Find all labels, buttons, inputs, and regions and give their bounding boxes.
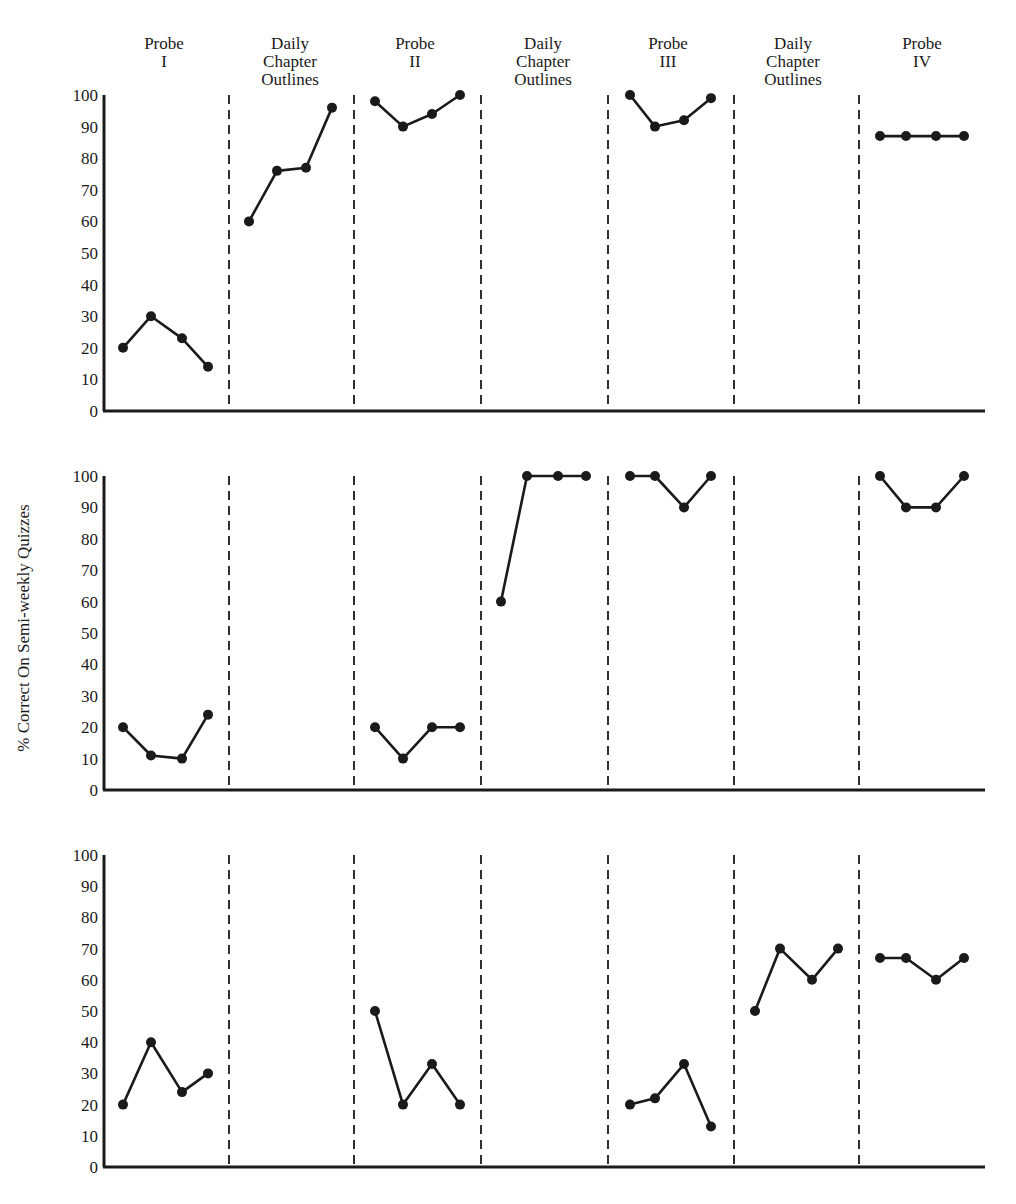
y-tick-label: 70 [81, 181, 98, 200]
data-point [427, 1059, 437, 1069]
data-line [755, 949, 838, 1011]
y-tick-label: 40 [81, 655, 98, 674]
multiple-baseline-figure: Probe I Daily Chapter Outlines Probe II … [0, 0, 1016, 1204]
data-line [123, 316, 208, 367]
data-point [398, 1100, 408, 1110]
data-line [880, 958, 964, 980]
data-line [249, 108, 332, 222]
data-point [327, 103, 337, 113]
y-tick-label: 90 [81, 118, 98, 137]
data-point [553, 471, 563, 481]
data-point [581, 471, 591, 481]
y-tick-label: 10 [81, 750, 98, 769]
y-tick-label: 10 [81, 1127, 98, 1146]
y-tick-label: 60 [81, 593, 98, 612]
data-point [706, 93, 716, 103]
data-point [706, 471, 716, 481]
data-line [880, 476, 964, 507]
data-point [650, 1093, 660, 1103]
data-point [370, 722, 380, 732]
y-tick-label: 30 [81, 1064, 98, 1083]
data-point [959, 471, 969, 481]
data-point [833, 944, 843, 954]
y-tick-label: 60 [81, 971, 98, 990]
data-point [959, 953, 969, 963]
data-point [750, 1006, 760, 1016]
data-point [522, 471, 532, 481]
y-tick-label: 100 [73, 846, 99, 865]
data-point [679, 502, 689, 512]
data-line [123, 715, 208, 759]
y-tick-label: 100 [73, 86, 99, 105]
y-tick-label: 20 [81, 718, 98, 737]
data-point [625, 1100, 635, 1110]
data-point [901, 502, 911, 512]
data-point [901, 953, 911, 963]
data-point [875, 953, 885, 963]
data-point [679, 115, 689, 125]
y-tick-label: 20 [81, 1096, 98, 1115]
data-point [455, 1100, 465, 1110]
data-line [375, 727, 460, 758]
data-point [427, 722, 437, 732]
y-tick-label: 80 [81, 530, 98, 549]
data-line [630, 95, 711, 127]
data-point [203, 362, 213, 372]
y-tick-label: 20 [81, 339, 98, 358]
y-tick-label: 60 [81, 212, 98, 231]
y-tick-label: 40 [81, 276, 98, 295]
data-point [370, 96, 380, 106]
data-point [931, 502, 941, 512]
data-point [775, 944, 785, 954]
data-point [203, 1068, 213, 1078]
y-tick-label: 90 [81, 877, 98, 896]
data-line [375, 1011, 460, 1105]
data-point [650, 471, 660, 481]
data-point [146, 1037, 156, 1047]
data-line [630, 476, 711, 507]
y-tick-label: 50 [81, 624, 98, 643]
data-point [496, 597, 506, 607]
y-tick-label: 0 [90, 781, 99, 800]
data-line [375, 95, 460, 127]
y-tick-label: 0 [90, 1158, 99, 1177]
data-point [177, 754, 187, 764]
data-point [177, 1087, 187, 1097]
data-point [118, 1100, 128, 1110]
data-point [118, 722, 128, 732]
y-tick-label: 70 [81, 561, 98, 580]
y-tick-label: 0 [90, 402, 99, 421]
data-point [959, 131, 969, 141]
y-tick-label: 30 [81, 307, 98, 326]
data-point [625, 90, 635, 100]
data-point [203, 710, 213, 720]
y-tick-label: 10 [81, 370, 98, 389]
y-tick-label: 40 [81, 1033, 98, 1052]
data-point [679, 1059, 689, 1069]
data-point [931, 131, 941, 141]
data-point [301, 163, 311, 173]
y-tick-label: 90 [81, 498, 98, 517]
data-point [118, 343, 128, 353]
data-point [455, 90, 465, 100]
y-tick-label: 50 [81, 244, 98, 263]
data-point [398, 122, 408, 132]
data-point [625, 471, 635, 481]
data-line [630, 1064, 711, 1126]
data-point [146, 311, 156, 321]
data-point [807, 975, 817, 985]
y-tick-label: 100 [73, 467, 99, 486]
data-point [146, 750, 156, 760]
data-point [370, 1006, 380, 1016]
data-point [706, 1121, 716, 1131]
data-point [272, 166, 282, 176]
y-tick-label: 30 [81, 687, 98, 706]
data-point [398, 754, 408, 764]
plot-area: 0102030405060708090100010203040506070809… [0, 0, 1016, 1204]
data-point [875, 131, 885, 141]
y-tick-label: 50 [81, 1002, 98, 1021]
y-tick-label: 80 [81, 908, 98, 927]
data-point [650, 122, 660, 132]
data-point [177, 333, 187, 343]
y-tick-label: 80 [81, 149, 98, 168]
